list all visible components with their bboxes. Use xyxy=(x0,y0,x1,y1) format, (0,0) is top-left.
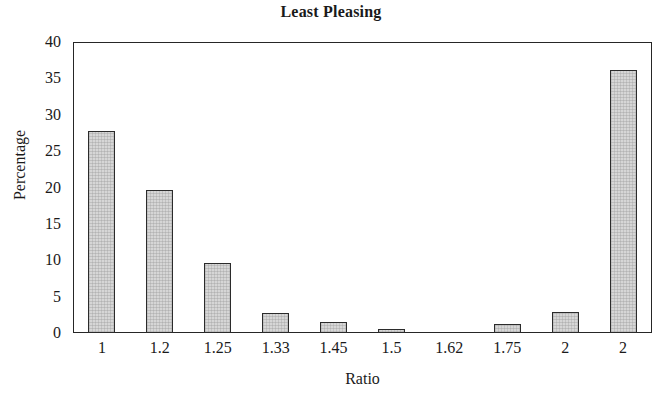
y-tick-label: 0 xyxy=(53,325,61,341)
x-tick-label: 1 xyxy=(73,339,131,357)
bars-layer xyxy=(73,42,652,333)
x-tick-label: 1.33 xyxy=(247,339,305,357)
bar xyxy=(146,190,173,333)
x-tick-label: 2 xyxy=(594,339,652,357)
y-axis-title: Percentage xyxy=(11,65,29,265)
x-axis-title: Ratio xyxy=(73,370,652,388)
bar xyxy=(610,70,637,333)
y-tick-label: 30 xyxy=(45,107,61,123)
x-axis: 11.21.251.331.451.51.621.7522 xyxy=(73,333,652,373)
y-tick-label: 40 xyxy=(45,34,61,50)
x-tick-label: 1.75 xyxy=(478,339,536,357)
y-tick-label: 15 xyxy=(45,216,61,232)
bar-chart: Least Pleasing 0510152025303540 Percenta… xyxy=(0,0,662,397)
x-tick-label: 1.2 xyxy=(131,339,189,357)
y-tick-label: 35 xyxy=(45,70,61,86)
chart-title: Least Pleasing xyxy=(0,3,662,21)
x-tick-label: 1.25 xyxy=(189,339,247,357)
bar xyxy=(494,324,521,333)
bar xyxy=(88,131,115,333)
x-tick-label: 1.62 xyxy=(420,339,478,357)
y-tick-label: 5 xyxy=(53,289,61,305)
bar xyxy=(204,263,231,333)
bar xyxy=(262,313,289,333)
bar xyxy=(320,322,347,333)
y-tick-label: 20 xyxy=(45,180,61,196)
y-tick-label: 10 xyxy=(45,252,61,268)
x-tick-label: 1.5 xyxy=(363,339,421,357)
bar xyxy=(552,312,579,333)
x-tick-label: 2 xyxy=(536,339,594,357)
x-tick-label: 1.45 xyxy=(305,339,363,357)
y-tick-label: 25 xyxy=(45,143,61,159)
